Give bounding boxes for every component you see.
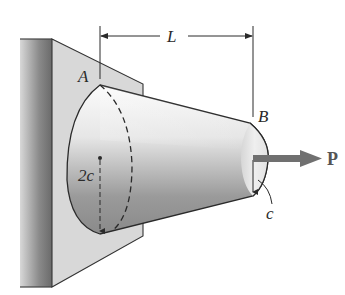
wall-front-face xyxy=(20,39,52,287)
label-point-a: A xyxy=(77,67,89,86)
cone-highlight xyxy=(100,85,250,150)
tapered-rod-diagram: L A B 2c c P xyxy=(0,0,345,295)
force-arrow-shaft xyxy=(253,155,303,162)
force-arrow-head xyxy=(300,150,322,167)
label-force: P xyxy=(327,149,338,169)
center-dot xyxy=(98,156,102,160)
label-radius: c xyxy=(266,204,274,223)
label-length: L xyxy=(166,27,176,46)
label-diameter: 2c xyxy=(78,166,95,185)
wall xyxy=(20,39,52,287)
label-point-b: B xyxy=(258,107,269,126)
tapered-rod xyxy=(67,85,268,234)
